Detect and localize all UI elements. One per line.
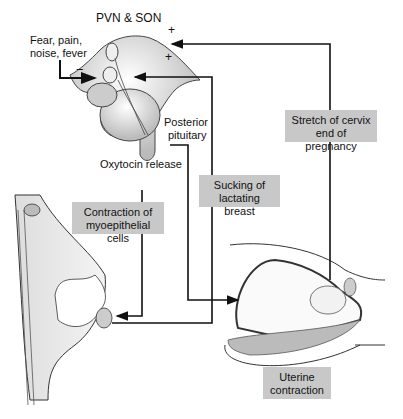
plus-sign-bottom: + — [165, 51, 172, 64]
box-stretch-cervix: Stretch of cervix end of pregnancy — [285, 110, 377, 142]
box-myoepithelial-contraction: Contraction of myoepithelial cells — [72, 202, 164, 234]
posterior-pituitary-label-line2: pituitary — [168, 129, 207, 142]
box-uterine-contraction: Uterine contraction — [263, 367, 331, 399]
box-uterine-line1: Uterine — [269, 371, 325, 384]
posterior-pituitary-label-line1: Posterior — [164, 116, 208, 129]
box-sucking-lactating-breast: Sucking of lactating breast — [199, 175, 280, 207]
plus-sign-top: + — [168, 24, 175, 37]
diagram-canvas — [0, 0, 403, 419]
inhibitors-label-line1: Fear, pain, — [30, 34, 82, 47]
pregnant-uterus-illustration — [225, 244, 385, 366]
pvn-son-label: PVN & SON — [96, 12, 161, 25]
box-sucking-line2: lactating breast — [205, 192, 274, 218]
box-cervix-line1: Stretch of cervix — [291, 114, 371, 127]
box-sucking-line1: Sucking of — [205, 179, 274, 192]
oxytocin-release-label: Oxytocin release — [100, 158, 182, 171]
box-cervix-line2: end of pregnancy — [291, 127, 371, 153]
minus-sign: − — [76, 63, 84, 76]
box-uterine-line2: contraction — [269, 384, 325, 397]
box-myoepithelial-line2: myoepithelial cells — [78, 219, 158, 245]
box-myoepithelial-line1: Contraction of — [78, 206, 158, 219]
inhibitors-label-line2: noise, fever — [30, 47, 87, 60]
